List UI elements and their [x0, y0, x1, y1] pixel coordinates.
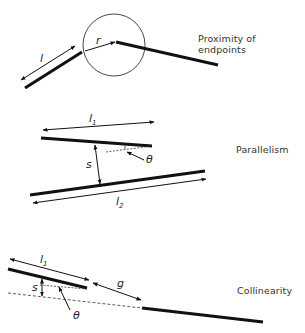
theta-arrow [127, 152, 144, 160]
collinearity-title: Collinearity [237, 285, 292, 296]
l1-arrow-collinear [10, 259, 89, 280]
l1-symbol-collinear: l1 [40, 253, 48, 268]
theta-symbol-collinear: θ [73, 309, 80, 322]
segment-2-collinear [142, 308, 263, 322]
radius-symbol: r [96, 34, 102, 47]
extension-line [8, 293, 142, 308]
l1-arrow [43, 122, 154, 130]
proximity-title: Proximity of endpoints [198, 33, 305, 55]
parallel-reference [106, 146, 152, 152]
s-symbol: s [86, 158, 92, 171]
parallelism-panel: l1 θ s l2 [30, 112, 206, 210]
proximity-panel: l r [21, 14, 218, 88]
s-symbol-collinear: s [32, 281, 38, 294]
theta-symbol: θ [146, 153, 153, 166]
segment-1 [41, 138, 152, 146]
segment-a [25, 52, 82, 88]
segment-1-collinear [8, 269, 87, 288]
length-symbol: l [40, 52, 43, 65]
collinearity-panel: l1 s θ g [8, 253, 263, 322]
l2-symbol: l2 [116, 195, 124, 210]
l1-symbol: l1 [89, 112, 97, 127]
parallelism-title: Parallelism [236, 144, 289, 155]
g-symbol: g [117, 277, 124, 290]
separation-arrow [95, 145, 100, 184]
